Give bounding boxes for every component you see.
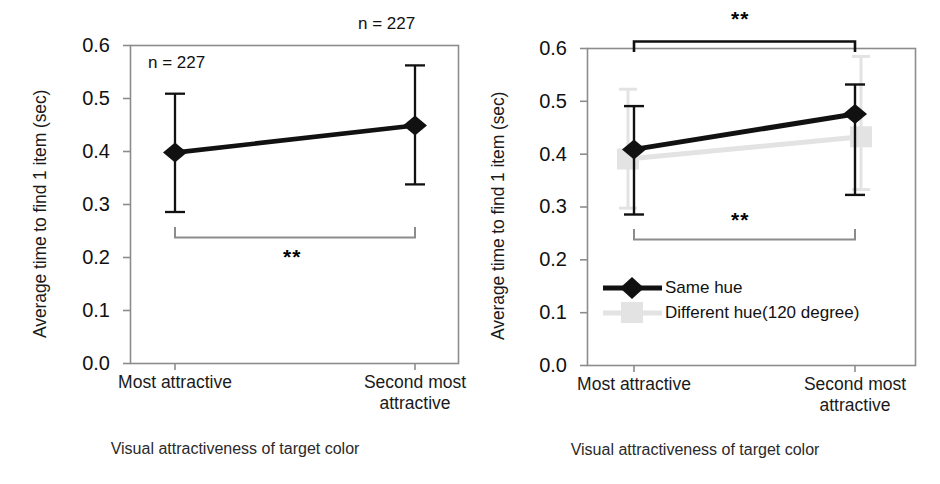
significance-stars-top: ** [731,8,749,29]
x-axis-title: Visual attractiveness of target color [525,441,865,459]
chart-panel-right: Average time to find 1 item (sec) 0.6 0.… [470,0,940,484]
legend-swatch-different-hue [603,302,662,323]
data-point-marker [163,143,187,163]
significance-bracket-black [634,42,855,53]
y-tick-label: 0.2 [48,246,110,269]
sample-size-annotation-inside: n = 227 [148,53,205,73]
significance-bracket-gray [175,227,415,238]
significance-stars-bottom: ** [731,209,749,230]
y-tick-label: 0.3 [48,193,110,216]
legend-label-same-hue: Same hue [665,278,743,298]
sample-size-annotation-above: n = 227 [358,14,415,34]
x-axis-title: Visual attractiveness of target color [65,440,405,458]
x-axis-ticks [634,366,855,373]
data-point-marker-different-hue [850,126,872,147]
legend-label-different-hue: Different hue(120 degree) [665,303,859,323]
y-axis-ticks [123,46,131,364]
x-tick-label-2-line2: attractive [775,395,935,416]
series-line-different-hue [628,137,861,159]
x-tick-label-1: Most attractive [95,372,255,393]
y-tick-label: 0.2 [505,248,567,271]
y-tick-label: 0.3 [505,195,567,218]
x-axis-ticks [175,364,415,371]
y-tick-label: 0.5 [505,90,567,113]
data-point-marker-same-hue [843,104,867,124]
data-point-marker [403,116,427,136]
y-tick-label: 0.4 [505,143,567,166]
figure-root: Average time to find 1 item (sec) 0.6 0.… [0,0,940,484]
y-tick-label: 0.1 [48,299,110,322]
y-tick-label: 0.1 [505,301,567,324]
y-tick-label: 0.6 [505,37,567,60]
y-axis-ticks [580,49,588,366]
series-line-same-hue [634,114,855,149]
chart-panel-left: Average time to find 1 item (sec) 0.6 0.… [0,0,470,484]
y-tick-label: 0.6 [48,34,110,57]
x-tick-label-1: Most attractive [554,374,714,395]
significance-stars: ** [283,246,301,267]
series-line [175,126,415,153]
y-tick-label: 0.4 [48,140,110,163]
legend-swatch-same-hue [603,277,662,299]
y-tick-label: 0.5 [48,87,110,110]
x-tick-label-2-line1: Second most [775,374,935,395]
